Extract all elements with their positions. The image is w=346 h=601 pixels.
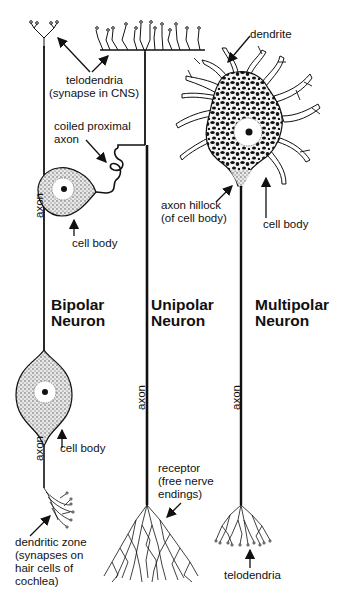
label-receptor-line1: receptor — [158, 462, 200, 475]
title-bipolar-line2: Neuron — [51, 313, 105, 329]
label-unipolar-cell-body: cell body — [72, 237, 117, 250]
label-receptor-line3: endings) — [158, 488, 202, 501]
label-dendritic-zone-line4: cochlea) — [15, 575, 58, 588]
title-multipolar-line2: Neuron — [255, 313, 309, 329]
multipolar-telodendria — [215, 505, 271, 546]
label-coiled-axon-line2: axon — [54, 133, 79, 146]
multipolar-axon-hillock — [230, 170, 252, 188]
label-axon-hillock-line2: (of cell body) — [161, 212, 227, 225]
label-bipolar-cell-body: cell body — [60, 442, 105, 455]
arrow-coiled-axon — [86, 140, 106, 162]
arrow-telodendria-bipolar — [58, 38, 90, 72]
label-dendritic-zone-line1: dendritic zone — [15, 536, 87, 549]
label-multipolar-cell-body: cell body — [263, 218, 308, 231]
unipolar-telodendria — [96, 21, 205, 52]
label-axon-hillock-line1: axon hillock — [161, 199, 221, 212]
bipolar-telodendria — [30, 21, 59, 48]
label-bipolar-axon-lower: axon — [33, 436, 45, 461]
arrow-telodendria-unipolar — [92, 56, 108, 72]
title-unipolar-line1: Unipolar — [151, 297, 214, 313]
arrow-dendritic-zone — [30, 516, 50, 536]
title-multipolar-line1: Multipolar — [255, 297, 329, 313]
unipolar-receptor-endings — [104, 505, 198, 582]
label-dendritic-zone-line3: hair cells of — [15, 562, 73, 575]
label-receptor-line2: (free nerve — [158, 475, 214, 488]
label-dendrite: dendrite — [250, 28, 292, 41]
label-multipolar-axon: axon — [230, 385, 242, 410]
arrow-dendrite — [228, 36, 250, 62]
label-unipolar-axon: axon — [135, 385, 147, 410]
label-coiled-axon-line1: coiled proximal — [54, 120, 131, 133]
bipolar-dendritic-zone — [44, 488, 74, 528]
label-multipolar-telodendria: telodendria — [224, 569, 281, 582]
label-bipolar-axon-upper: axon — [33, 193, 45, 218]
title-unipolar-line2: Neuron — [151, 313, 205, 329]
label-telodendria-line1: telodendria — [66, 74, 123, 87]
label-dendritic-zone-line2: (synapses on — [15, 549, 83, 562]
arrow-receptor — [167, 503, 181, 517]
title-bipolar-line1: Bipolar — [51, 297, 104, 313]
label-telodendria-line2: (synapse in CNS) — [49, 87, 139, 100]
